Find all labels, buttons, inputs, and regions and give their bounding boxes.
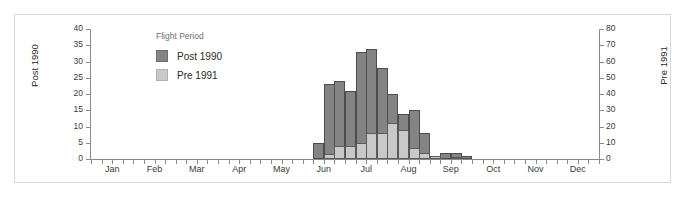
legend-item-pre-1991: Pre 1991 — [156, 69, 222, 81]
right-axis-tick-label: 40 — [606, 88, 634, 98]
x-axis-month-label: Dec — [548, 164, 608, 174]
bar-pre-1991 — [419, 153, 430, 160]
left-axis-tick — [86, 78, 90, 79]
left-axis-tick — [86, 159, 90, 160]
legend-swatch-post-1990-icon — [156, 50, 168, 62]
bar-pre-1991 — [334, 146, 345, 159]
right-axis-tick-label: 60 — [606, 56, 634, 66]
right-axis-tick — [600, 110, 604, 111]
right-axis-tick — [600, 127, 604, 128]
left-axis-tick-label: 30 — [55, 56, 83, 66]
right-axis-tick — [600, 29, 604, 30]
right-axis-tick-label: 70 — [606, 39, 634, 49]
right-axis-tick — [600, 94, 604, 95]
right-axis-tick-label: 0 — [606, 153, 634, 163]
bar-post-1990 — [313, 143, 324, 159]
right-axis-tick — [600, 78, 604, 79]
right-axis-tick — [600, 159, 604, 160]
left-axis-tick-label: 25 — [55, 72, 83, 82]
left-axis-tick-label: 15 — [55, 104, 83, 114]
right-axis-tick-label: 50 — [606, 72, 634, 82]
bar-post-1990 — [440, 153, 451, 160]
left-axis-tick-label: 35 — [55, 39, 83, 49]
legend-swatch-pre-1991-icon — [156, 69, 168, 81]
legend-title: Flight Period — [156, 31, 222, 41]
left-axis-line — [90, 29, 91, 160]
right-axis-title: Pre 1991 — [658, 26, 669, 106]
left-axis-tick — [86, 94, 90, 95]
left-axis-tick-label: 5 — [55, 137, 83, 147]
left-axis-tick-label: 20 — [55, 88, 83, 98]
left-axis-tick — [86, 29, 90, 30]
legend-item-post-1990: Post 1990 — [156, 50, 222, 62]
right-axis-tick — [600, 62, 604, 63]
right-axis-tick-label: 30 — [606, 104, 634, 114]
left-axis-tick — [86, 143, 90, 144]
legend-label-post-1990: Post 1990 — [177, 51, 222, 62]
left-axis-tick-label: 10 — [55, 121, 83, 131]
bar-pre-1991 — [430, 156, 441, 159]
left-axis-tick — [86, 127, 90, 128]
bar-pre-1991 — [366, 133, 377, 159]
bar-post-1990 — [461, 156, 472, 159]
left-axis-title: Post 1990 — [29, 26, 40, 106]
left-axis-tick — [86, 110, 90, 111]
left-axis-tick-label: 0 — [55, 153, 83, 163]
legend: Flight Period Post 1990 Pre 1991 — [156, 31, 222, 88]
right-axis-tick — [600, 143, 604, 144]
bar-pre-1991 — [345, 146, 356, 159]
right-axis-tick-label: 80 — [606, 23, 634, 33]
bar-pre-1991 — [387, 123, 398, 159]
right-axis-tick-label: 20 — [606, 121, 634, 131]
right-axis-tick-label: 10 — [606, 137, 634, 147]
right-axis-tick — [600, 45, 604, 46]
left-axis-tick-label: 40 — [55, 23, 83, 33]
left-axis-tick — [86, 45, 90, 46]
bar-pre-1991 — [398, 130, 409, 159]
legend-label-pre-1991: Pre 1991 — [177, 70, 218, 81]
chart-screenshot: 0510152025303540 01020304050607080 JanFe… — [0, 0, 689, 205]
left-axis-tick — [86, 62, 90, 63]
